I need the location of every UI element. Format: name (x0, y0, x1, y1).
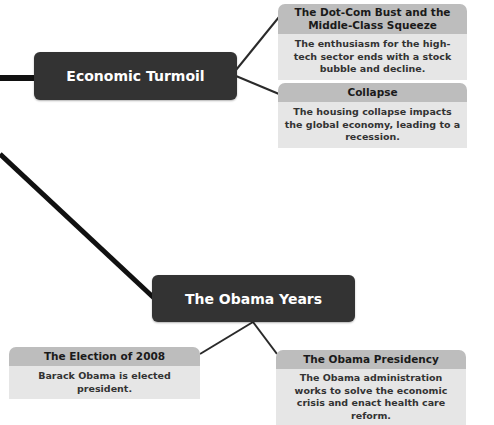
node-economic-turmoil: Economic Turmoil (34, 52, 237, 100)
card-collapse: Collapse The housing collapse impacts th… (278, 83, 467, 148)
connector-dotcom (236, 17, 279, 70)
connector-election (200, 322, 253, 354)
card-body: The enthusiasm for the high-tech sector … (278, 34, 467, 80)
node-obama-years: The Obama Years (152, 275, 355, 322)
connector-diagonal (0, 154, 154, 298)
card-body: Barack Obama is elected president. (9, 366, 200, 399)
connector-collapse (236, 76, 279, 94)
card-body: The Obama administration works to solve … (276, 369, 466, 425)
connector-presidency (253, 322, 277, 354)
node-title: Economic Turmoil (66, 68, 204, 84)
card-dotcom-bust: The Dot-Com Bust and the Middle-Class Sq… (278, 4, 467, 80)
card-title: The Obama Presidency (276, 350, 466, 369)
card-title: The Election of 2008 (9, 347, 200, 366)
node-title: The Obama Years (185, 291, 322, 307)
card-title: Collapse (278, 83, 467, 102)
card-election-2008: The Election of 2008 Barack Obama is ele… (9, 347, 200, 399)
card-body: The housing collapse impacts the global … (278, 102, 467, 148)
card-obama-presidency: The Obama Presidency The Obama administr… (276, 350, 466, 425)
card-title: The Dot-Com Bust and the Middle-Class Sq… (278, 4, 467, 34)
